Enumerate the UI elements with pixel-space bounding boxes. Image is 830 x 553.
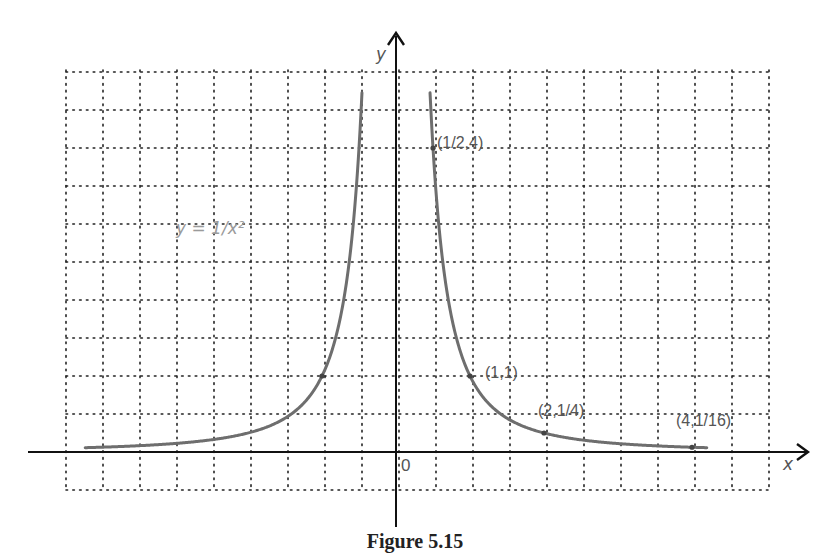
x-axis-label: x — [783, 454, 793, 474]
origin-label: 0 — [401, 456, 410, 476]
y-axis-label: y — [376, 44, 386, 64]
figure-caption: Figure 5.15 — [0, 530, 830, 553]
point-label-4-sixteenth: (4,1/16) — [676, 412, 731, 430]
axes — [28, 33, 808, 527]
marked-points — [319, 145, 694, 449]
function-label: y = 1/x² — [176, 218, 245, 238]
point-label-half-4: (1/2,4) — [437, 134, 483, 152]
point-label-2-quarter: (2,1/4) — [538, 402, 584, 420]
point-label-1-1: (1,1) — [485, 364, 518, 382]
dotted-grid — [66, 70, 769, 490]
